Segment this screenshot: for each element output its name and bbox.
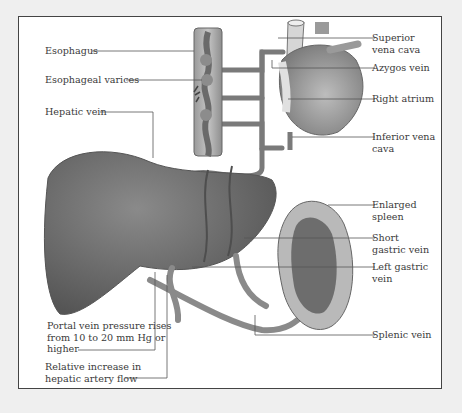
label-left-gastric-vein: Left gastric vein (372, 261, 428, 284)
label-portal-vein-pressure: Portal vein pressure rises from 10 to 20… (47, 320, 171, 355)
heart-shape (279, 20, 363, 135)
label-short-gastric-vein: Short gastric vein (372, 232, 429, 255)
spleen-shape (278, 201, 353, 329)
label-esophagus: Esophagus (45, 45, 98, 57)
label-superior-vena-cava: Superior vena cava (372, 32, 420, 55)
label-hepatic-artery-flow: Relative increase in hepatic artery flow (45, 361, 141, 384)
liver-shape (44, 152, 276, 315)
label-hepatic-vein: Hepatic vein (45, 106, 107, 118)
label-inferior-vena-cava: Inferior vena cava (372, 131, 435, 154)
label-splenic-vein: Splenic vein (372, 329, 431, 341)
esophagus-shape (194, 28, 222, 156)
label-azygos-vein: Azygos vein (372, 62, 430, 74)
azygos-vein-shape (222, 52, 283, 148)
label-esophageal-varices: Esophageal varices (45, 74, 139, 86)
label-enlarged-spleen: Enlarged spleen (372, 199, 417, 222)
label-right-atrium: Right atrium (372, 93, 434, 105)
